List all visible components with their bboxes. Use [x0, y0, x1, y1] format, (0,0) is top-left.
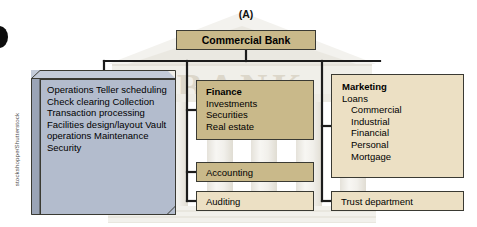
marketing-subitem: Industrial — [342, 116, 463, 128]
node-auditing[interactable]: Auditing — [196, 191, 314, 211]
trust-label: Trust department — [341, 196, 463, 208]
marketing-content: Marketing Loans Commercial Industrial Fi… — [332, 75, 463, 162]
operations-item: Facilities design/layout — [47, 119, 143, 130]
panel-label: (A) — [216, 8, 276, 20]
marketing-subitem: Financial — [342, 127, 463, 139]
node-finance[interactable]: Finance Investments Securities Real esta… — [196, 80, 314, 140]
auditing-content: Auditing — [197, 192, 313, 208]
finance-item: Investments — [206, 98, 313, 110]
marketing-item: Loans — [342, 93, 463, 105]
operations-item: Transaction processing — [47, 107, 145, 118]
marketing-title: Marketing — [342, 81, 463, 93]
node-operations[interactable]: Operations Teller scheduling Check clear… — [31, 70, 176, 215]
finance-item: Securities — [206, 109, 313, 121]
node-marketing[interactable]: Marketing Loans Commercial Industrial Fi… — [331, 74, 464, 178]
marketing-subitem: Mortgage — [342, 151, 463, 163]
marketing-subitem: Personal — [342, 139, 463, 151]
operations-box-top-face — [31, 70, 176, 79]
operations-item: Teller scheduling — [96, 84, 167, 95]
operations-content: Operations Teller scheduling Check clear… — [47, 84, 173, 154]
image-credit: stockshoppe/Shutterstock — [13, 107, 20, 193]
operations-item: Check clearing — [47, 96, 110, 107]
auditing-label: Auditing — [206, 196, 313, 208]
node-accounting[interactable]: Accounting — [196, 162, 314, 182]
operations-title: Operations — [47, 84, 93, 95]
figure-panel: BANK — [0, 0, 477, 227]
finance-item: Real estate — [206, 121, 313, 133]
accounting-content: Accounting — [197, 163, 313, 179]
finance-title: Finance — [206, 86, 313, 98]
node-commercial-bank[interactable]: Commercial Bank — [176, 30, 316, 50]
operations-item: Maintenance — [94, 130, 148, 141]
operations-item: Security — [47, 142, 81, 153]
node-trust-department[interactable]: Trust department — [331, 191, 464, 211]
operations-item: Collection — [112, 96, 154, 107]
finance-content: Finance Investments Securities Real esta… — [197, 81, 313, 132]
node-commercial-bank-label: Commercial Bank — [202, 34, 291, 46]
accounting-label: Accounting — [206, 167, 313, 179]
trust-content: Trust department — [332, 192, 463, 208]
marketing-subitem: Commercial — [342, 104, 463, 116]
operations-box-left-face — [31, 70, 40, 215]
